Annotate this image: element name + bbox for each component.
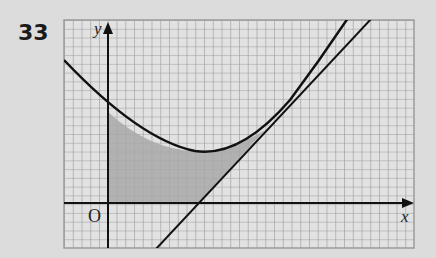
y-axis-label: y: [92, 19, 102, 38]
origin-label: O: [88, 206, 101, 226]
x-axis-label: x: [400, 207, 409, 226]
graph-figure: y x O: [0, 0, 436, 258]
